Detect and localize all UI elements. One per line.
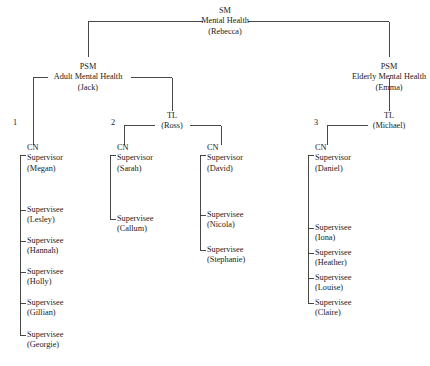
supervisee-gillian[interactable]: Supervisee (Gillian): [27, 298, 63, 319]
supervisee-gillian-title: Supervisee: [27, 298, 63, 308]
sm-person: (Rebecca): [201, 27, 249, 37]
supervisee-holly-title: Supervisee: [27, 267, 63, 277]
tl-michael-role: TL: [373, 111, 406, 121]
supervisee-georgie-title: Supervisee: [27, 330, 63, 340]
supervisee-holly-person: (Holly): [27, 277, 63, 287]
supervisee-claire-title: Supervisee: [315, 298, 351, 308]
org-chart: SM Mental Health (Rebecca) PSM Adult Men…: [0, 0, 430, 366]
psm-elderly-service: Elderly Mental Health: [352, 72, 426, 82]
supervisor-david[interactable]: CN Supervisor (David): [207, 143, 243, 174]
supervisee-claire-person: (Claire): [315, 308, 351, 318]
supervisor-david-role: CN: [207, 143, 243, 153]
supervisee-hannah-person: (Hannah): [27, 246, 63, 256]
supervisee-iona[interactable]: Supervisee (Iona): [315, 223, 351, 244]
psm-elderly-person: (Emma): [352, 83, 426, 93]
supervisee-hannah-title: Supervisee: [27, 236, 63, 246]
supervisee-georgie-person: (Georgie): [27, 340, 63, 350]
supervisee-callum[interactable]: Supervisee (Callum): [117, 214, 153, 235]
supervisor-daniel-title: Supervisor: [315, 153, 351, 163]
sm-service: Mental Health: [201, 16, 249, 26]
supervisee-heather-person: (Heather): [315, 258, 351, 268]
supervisee-iona-title: Supervisee: [315, 223, 351, 233]
supervisee-lesley[interactable]: Supervisee (Lesley): [27, 205, 63, 226]
supervisor-david-person: (David): [207, 164, 243, 174]
supervisee-callum-person: (Callum): [117, 224, 153, 234]
supervisor-sarah[interactable]: CN Supervisor (Sarah): [117, 143, 153, 174]
node-tl-michael[interactable]: TL (Michael): [373, 111, 406, 132]
branch-number-2: 2: [111, 118, 115, 128]
supervisee-hannah[interactable]: Supervisee (Hannah): [27, 236, 63, 257]
supervisor-megan-title: Supervisor: [27, 153, 63, 163]
supervisee-heather-title: Supervisee: [315, 248, 351, 258]
connector-lines: [0, 0, 430, 366]
node-psm-elderly[interactable]: PSM Elderly Mental Health (Emma): [352, 62, 426, 93]
supervisee-heather[interactable]: Supervisee (Heather): [315, 248, 351, 269]
sm-role: SM: [201, 6, 249, 16]
psm-adult-service: Adult Mental Health: [54, 72, 123, 82]
supervisee-stephanie-title: Supervisee: [207, 245, 245, 255]
branch-number-1: 1: [13, 118, 17, 128]
supervisee-nicola-title: Supervisee: [207, 210, 243, 220]
tl-ross-person: (Ross): [161, 121, 183, 131]
supervisee-stephanie[interactable]: Supervisee (Stephanie): [207, 245, 245, 266]
psm-elderly-role: PSM: [352, 62, 426, 72]
supervisor-david-title: Supervisor: [207, 153, 243, 163]
psm-adult-person: (Jack): [54, 83, 123, 93]
supervisee-claire[interactable]: Supervisee (Claire): [315, 298, 351, 319]
supervisee-holly[interactable]: Supervisee (Holly): [27, 267, 63, 288]
supervisor-sarah-title: Supervisor: [117, 153, 153, 163]
node-tl-ross[interactable]: TL (Ross): [161, 111, 183, 132]
supervisor-megan-role: CN: [27, 143, 63, 153]
supervisor-megan[interactable]: CN Supervisor (Megan): [27, 143, 63, 174]
tl-michael-person: (Michael): [373, 121, 406, 131]
supervisee-lesley-title: Supervisee: [27, 205, 63, 215]
node-sm-root[interactable]: SM Mental Health (Rebecca): [201, 6, 249, 37]
supervisor-sarah-person: (Sarah): [117, 164, 153, 174]
node-psm-adult[interactable]: PSM Adult Mental Health (Jack): [54, 62, 123, 93]
supervisee-georgie[interactable]: Supervisee (Georgie): [27, 330, 63, 351]
supervisor-megan-person: (Megan): [27, 164, 63, 174]
branch-number-3: 3: [314, 118, 318, 128]
supervisee-callum-title: Supervisee: [117, 214, 153, 224]
supervisor-daniel[interactable]: CN Supervisor (Daniel): [315, 143, 351, 174]
supervisee-nicola-person: (Nicola): [207, 220, 243, 230]
tl-ross-role: TL: [161, 111, 183, 121]
supervisor-daniel-role: CN: [315, 143, 351, 153]
supervisee-nicola[interactable]: Supervisee (Nicola): [207, 210, 243, 231]
supervisee-gillian-person: (Gillian): [27, 308, 63, 318]
supervisee-louise-title: Supervisee: [315, 273, 351, 283]
supervisee-lesley-person: (Lesley): [27, 215, 63, 225]
supervisee-louise[interactable]: Supervisee (Louise): [315, 273, 351, 294]
supervisee-louise-person: (Louise): [315, 283, 351, 293]
supervisor-sarah-role: CN: [117, 143, 153, 153]
supervisee-iona-person: (Iona): [315, 233, 351, 243]
supervisor-daniel-person: (Daniel): [315, 164, 351, 174]
supervisee-stephanie-person: (Stephanie): [207, 255, 245, 265]
psm-adult-role: PSM: [54, 62, 123, 72]
